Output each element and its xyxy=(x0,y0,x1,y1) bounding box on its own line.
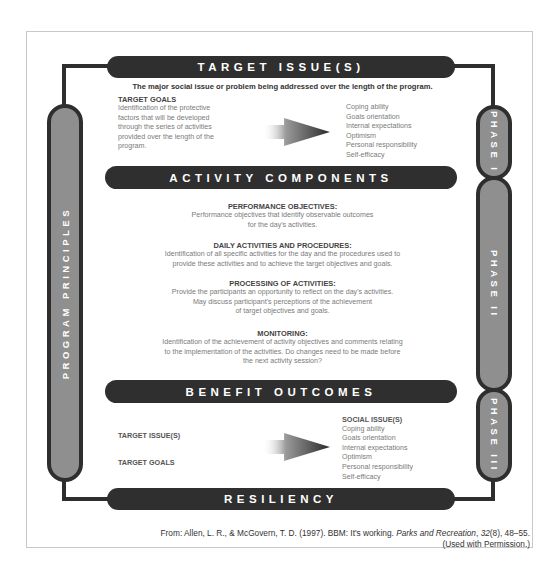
program-principles-pillar: PROGRAM PRINCIPLES xyxy=(47,104,83,482)
connector-top-right-h xyxy=(448,64,495,68)
arrow-right-icon xyxy=(262,431,334,463)
activity-components-banner: ACTIVITY COMPONENTS xyxy=(105,166,457,189)
section-title: MONITORING: xyxy=(110,329,455,338)
target-issues-banner: TARGET ISSUE(S) xyxy=(107,56,455,78)
section-line: the next activity session? xyxy=(110,357,455,367)
social-issue-item: Internal expectations xyxy=(342,444,413,454)
activity-components-banner-label: ACTIVITY COMPONENTS xyxy=(169,172,392,184)
phase-2-label: PHASE II xyxy=(489,250,500,319)
connector-bottom-right-h xyxy=(448,497,495,501)
target-goals-line: through the series of activities xyxy=(118,123,258,133)
social-issue-item: Goals orientation xyxy=(342,434,413,444)
protective-factor-item: Self-efficacy xyxy=(346,151,417,161)
figure-caption: From: Allen, L. R., & McGovern, T. D. (1… xyxy=(40,528,530,550)
section-line: Identification of all specific activitie… xyxy=(110,250,455,260)
caption-authors: From: Allen, L. R., & McGovern, T. D. (1… xyxy=(161,528,397,538)
protective-factor-item: Personal responsibility xyxy=(346,141,417,151)
protective-factor-item: Coping ability xyxy=(346,103,417,113)
section-line: Identification of the achievement of act… xyxy=(110,338,455,348)
protective-factors-list: Coping ability Goals orientation Interna… xyxy=(346,103,417,161)
section-title: DAILY ACTIVITIES AND PROCEDURES: xyxy=(110,241,455,250)
protective-factor-item: Goals orientation xyxy=(346,113,417,123)
section-line: for the day's activities. xyxy=(110,221,455,231)
section-line: Performance objectives that identify obs… xyxy=(110,211,455,221)
social-issues-list: SOCIAL ISSUE(S) Coping ability Goals ori… xyxy=(342,415,413,482)
connector-top-left-v xyxy=(62,64,66,108)
phase-3-label: PHASE III xyxy=(489,398,500,473)
target-goals-block: TARGET GOALS Identification of the prote… xyxy=(118,95,258,152)
social-issue-item: Optimism xyxy=(342,453,413,463)
connector-top-right-v xyxy=(491,64,495,108)
phase-1-pillar: PHASE I xyxy=(476,105,512,180)
target-goals-line: program. xyxy=(118,142,258,152)
processing-activities-section: PROCESSING OF ACTIVITIES: Provide the pa… xyxy=(110,279,455,317)
section-line: of target objectives and goals. xyxy=(110,307,455,317)
target-issues-description: The major social issue or problem being … xyxy=(110,82,455,91)
section-line: to the implementation of the activities.… xyxy=(110,348,455,358)
caption-permission: (Used with Permission.) xyxy=(40,539,530,550)
benefit-input-target-goals: TARGET GOALS xyxy=(118,458,175,467)
arrow-right-icon xyxy=(262,116,334,148)
monitoring-section: MONITORING: Identification of the achiev… xyxy=(110,329,455,367)
program-principles-label: PROGRAM PRINCIPLES xyxy=(60,207,71,379)
target-goals-text: Identification of the protective factors… xyxy=(118,104,258,152)
caption-pages: (8), 48–55. xyxy=(490,528,530,538)
phase-3-pillar: PHASE III xyxy=(476,388,512,482)
connector-top-left-h xyxy=(62,64,112,68)
section-line: May discuss participant's perceptions of… xyxy=(110,298,455,308)
benefit-outcomes-banner: BENEFIT OUTCOMES xyxy=(105,380,457,403)
performance-objectives-section: PERFORMANCE OBJECTIVES: Performance obje… xyxy=(110,202,455,230)
caption-journal: Parks and Recreation xyxy=(396,528,476,538)
resiliency-banner: RESILIENCY xyxy=(107,488,455,510)
target-goals-line: factors that will be developed xyxy=(118,114,258,124)
target-goals-title: TARGET GOALS xyxy=(118,95,258,104)
benefit-outcomes-banner-label: BENEFIT OUTCOMES xyxy=(186,386,377,398)
social-issues-title: SOCIAL ISSUE(S) xyxy=(342,415,413,425)
benefit-input-target-issues: TARGET ISSUE(S) xyxy=(118,431,180,440)
resiliency-banner-label: RESILIENCY xyxy=(224,493,338,505)
social-issue-item: Self-efficacy xyxy=(342,473,413,483)
caption-volume: 32 xyxy=(481,528,490,538)
target-goals-line: provided over the length of the xyxy=(118,133,258,143)
target-goals-line: Identification of the protective xyxy=(118,104,258,114)
section-line: Provide the participants an opportunity … xyxy=(110,288,455,298)
daily-activities-section: DAILY ACTIVITIES AND PROCEDURES: Identif… xyxy=(110,241,455,269)
section-line: provide these activities and to achieve … xyxy=(110,260,455,270)
protective-factor-item: Optimism xyxy=(346,132,417,142)
phase-1-label: PHASE I xyxy=(489,111,500,174)
protective-factor-item: Internal expectations xyxy=(346,122,417,132)
caption-citation: From: Allen, L. R., & McGovern, T. D. (1… xyxy=(40,528,530,539)
connector-bottom-left-h xyxy=(62,497,112,501)
phase-2-pillar: PHASE II xyxy=(476,176,512,392)
section-title: PERFORMANCE OBJECTIVES: xyxy=(110,202,455,211)
social-issue-item: Coping ability xyxy=(342,425,413,435)
section-title: PROCESSING OF ACTIVITIES: xyxy=(110,279,455,288)
target-issues-banner-label: TARGET ISSUE(S) xyxy=(198,61,365,73)
social-issue-item: Personal responsibility xyxy=(342,463,413,473)
